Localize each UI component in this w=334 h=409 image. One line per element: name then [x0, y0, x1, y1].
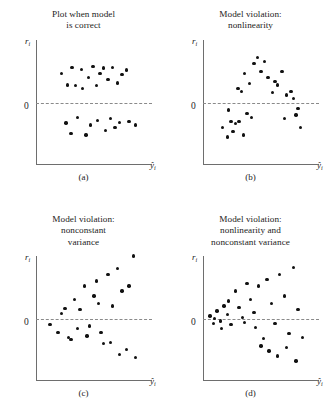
- data-point: [85, 334, 88, 337]
- data-point: [229, 120, 232, 123]
- panel-a-plot-area: [36, 40, 152, 165]
- data-point: [208, 314, 211, 317]
- data-point: [84, 133, 87, 136]
- panel-c-title: Model violation: nonconstant variance: [0, 214, 167, 248]
- panel-a-title-line-2: is correct: [0, 20, 167, 31]
- data-point: [296, 107, 299, 110]
- data-point: [250, 116, 253, 119]
- data-point: [263, 60, 266, 63]
- data-point: [99, 331, 102, 334]
- data-point: [76, 116, 79, 119]
- panel-d-title: Model violation: nonlinearity and noncon…: [167, 214, 334, 248]
- data-point: [236, 87, 239, 90]
- data-point: [60, 312, 63, 315]
- data-point: [102, 66, 105, 69]
- data-point: [91, 65, 94, 68]
- data-point: [120, 289, 123, 292]
- data-point: [83, 284, 86, 287]
- panel-b-zero-label: 0: [191, 101, 196, 111]
- data-point: [60, 72, 63, 75]
- panel-a-title-line-1: Plot when model: [0, 9, 167, 20]
- panel-a-caption: (a): [0, 172, 167, 182]
- data-point: [273, 322, 276, 325]
- data-point: [237, 120, 240, 123]
- panel-a-zero-label: 0: [24, 101, 29, 111]
- data-point: [78, 308, 81, 311]
- panel-a-zero-line: [36, 103, 152, 104]
- data-point: [231, 130, 234, 133]
- panel-d-y-axis-label: ri: [192, 252, 197, 263]
- data-point: [222, 304, 225, 307]
- panel-c-zero-line: [36, 319, 152, 320]
- data-point: [254, 326, 257, 329]
- data-point: [132, 254, 135, 257]
- panel-d-title-line-2: nonlinearity and: [167, 225, 334, 236]
- data-point: [106, 273, 109, 276]
- data-point: [243, 321, 246, 324]
- data-point: [221, 126, 224, 129]
- data-point: [66, 83, 69, 86]
- data-point: [283, 117, 286, 120]
- panel-b-title-line-1: Model violation:: [167, 9, 334, 20]
- data-point: [70, 66, 73, 69]
- panel-d-zero-label: 0: [191, 317, 196, 327]
- data-point: [257, 284, 260, 287]
- data-point: [98, 72, 101, 75]
- panel-b-title-line-2: nonlinearity: [167, 20, 334, 31]
- data-point: [280, 70, 283, 73]
- data-point: [69, 338, 72, 341]
- data-point: [226, 313, 229, 316]
- data-point: [80, 68, 83, 71]
- panel-d-title-line-3: nonconstant variance: [167, 237, 334, 248]
- data-point: [249, 298, 252, 301]
- data-point: [76, 327, 79, 330]
- data-point: [92, 294, 95, 297]
- data-point: [127, 284, 130, 287]
- panel-c-caption: (c): [0, 388, 167, 398]
- data-point: [252, 311, 255, 314]
- data-point: [276, 354, 279, 357]
- data-point: [234, 289, 237, 292]
- data-point: [289, 90, 292, 93]
- panel-b-title: Model violation: nonlinearity: [167, 9, 334, 32]
- residual-plots-figure: Plot when model is correct ri 0 ŷi (a) M…: [0, 0, 334, 409]
- data-point: [118, 353, 121, 356]
- data-point: [248, 82, 251, 85]
- panel-d-caption: (d): [167, 388, 334, 398]
- data-point: [256, 56, 259, 59]
- data-point: [229, 323, 232, 326]
- panel-c-y-axis-label: ri: [25, 252, 30, 263]
- data-point: [273, 80, 276, 83]
- data-point: [63, 307, 66, 310]
- data-point: [241, 316, 244, 319]
- data-point: [242, 133, 245, 136]
- data-point: [102, 342, 105, 345]
- data-point: [240, 90, 243, 93]
- data-point: [292, 97, 295, 100]
- data-point: [252, 62, 255, 65]
- data-point: [96, 119, 99, 122]
- data-point: [88, 324, 91, 327]
- data-point: [109, 117, 112, 120]
- data-point: [215, 309, 218, 312]
- data-point: [73, 298, 76, 301]
- panel-c-title-line-3: variance: [0, 237, 167, 248]
- data-point: [113, 126, 116, 129]
- data-point: [111, 66, 114, 69]
- data-point: [116, 81, 119, 84]
- panel-d-x-axis: [203, 380, 319, 381]
- panel-c-zero-label: 0: [24, 317, 29, 327]
- data-point: [267, 349, 270, 352]
- panel-a-title: Plot when model is correct: [0, 9, 167, 32]
- data-point: [220, 327, 223, 330]
- panel-b: Model violation: nonlinearity ri 0 ŷi (b…: [167, 0, 334, 204]
- data-point: [56, 331, 59, 334]
- panel-b-caption: (b): [167, 172, 334, 182]
- data-point: [125, 68, 128, 71]
- data-point: [95, 84, 98, 87]
- data-point: [111, 304, 114, 307]
- data-point: [237, 306, 240, 309]
- data-point: [134, 123, 137, 126]
- data-point: [118, 121, 121, 124]
- data-point: [67, 336, 70, 339]
